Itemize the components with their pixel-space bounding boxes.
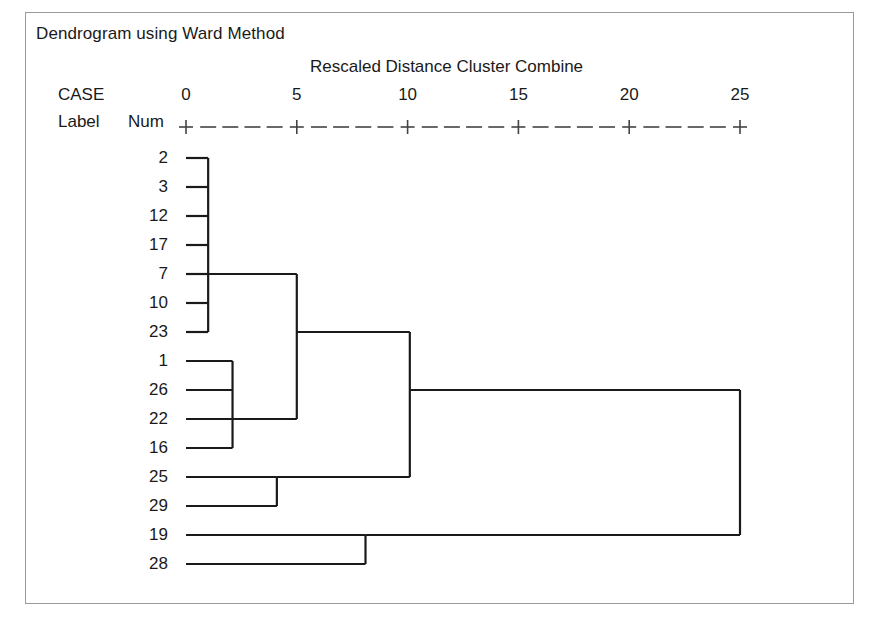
dendrogram-output: Dendrogram using Ward Method Rescaled Di…: [0, 0, 878, 621]
axis-ruler: [179, 120, 747, 134]
dendrogram-plot: [0, 0, 878, 621]
dendrogram-tree: [186, 158, 740, 564]
